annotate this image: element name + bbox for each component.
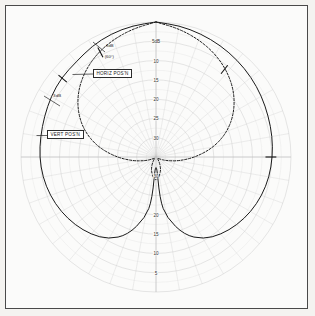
radial-tick-label-upper-20: 20 [153,97,159,102]
polar-plot [0,0,315,316]
radial-tick-label-upper-15: 15 [153,77,159,82]
radial-tick-label-upper-10: 10 [153,58,159,63]
radial-tick-label-upper-5: 5dB [151,39,160,44]
radial-tick-label-lower-15: 15 [153,232,159,237]
radial-tick-label-lower-10: 10 [153,251,159,256]
vert-posn-callout: VERT POS'N [47,130,84,139]
three-db-annotation: 3dB [53,93,61,98]
radial-tick-label-lower-30: 30 [153,174,159,179]
radial-tick-label-upper-25: 25 [153,116,159,121]
minus-3db-annotation: -3dB (60°) [100,38,114,64]
radial-tick-label-upper-30: 30 [153,135,159,140]
radial-tick-label-lower-5: 5 [154,270,158,275]
horiz-posn-callout: HORIZ POS'N [93,69,132,78]
chart-page: 5dB1015202530302015105 -3dB (60°) 3dB HO… [0,0,315,316]
minus-3db-line1: -3dB [105,43,114,48]
marker-ticks [58,48,276,157]
minus-3db-line2: (60°) [105,54,114,59]
radial-tick-label-lower-20: 20 [153,212,159,217]
